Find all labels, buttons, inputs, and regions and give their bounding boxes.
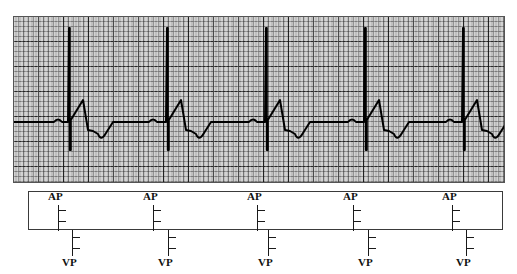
ventricular-pace-tick xyxy=(369,237,376,238)
ventricular-pace-tick xyxy=(73,237,80,238)
atrial-pace-tick xyxy=(154,221,161,222)
atrial-pace-tick xyxy=(59,210,66,211)
ventricular-pace-tick xyxy=(269,248,276,249)
atrial-pace-label: AP xyxy=(247,191,262,202)
ventricular-pace-tick xyxy=(467,248,474,249)
ventricular-pace-stem xyxy=(168,230,169,256)
atrial-pace-label: AP xyxy=(143,191,158,202)
ventricular-pace-tick xyxy=(369,248,376,249)
ventricular-pace-tick xyxy=(269,237,276,238)
atrial-pace-tick xyxy=(59,221,66,222)
ventricular-pace-tick xyxy=(169,248,176,249)
ecg-waveform-trace xyxy=(13,16,505,183)
atrial-pace-stem xyxy=(452,205,453,231)
atrial-pace-tick xyxy=(453,210,460,211)
atrial-pace-stem xyxy=(353,205,354,231)
atrial-pace-label: AP xyxy=(442,191,457,202)
atrial-pace-tick xyxy=(453,221,460,222)
atrial-pace-label: AP xyxy=(343,191,358,202)
ventricular-pace-stem xyxy=(268,230,269,256)
ventricular-pace-tick xyxy=(169,237,176,238)
ventricular-pace-tick xyxy=(73,248,80,249)
ventricular-pace-label: VP xyxy=(158,257,173,268)
ecg-figure: APAPAPAPAPVPVPVPVPVP xyxy=(0,0,517,274)
ecg-trace-path xyxy=(13,28,505,150)
ventricular-pace-tick xyxy=(467,237,474,238)
atrial-pace-label: AP xyxy=(48,191,63,202)
atrial-pace-tick xyxy=(354,221,361,222)
ecg-rhythm-strip xyxy=(13,16,505,183)
atrial-marker-box xyxy=(28,191,503,230)
ventricular-pace-stem xyxy=(368,230,369,256)
atrial-pace-stem xyxy=(257,205,258,231)
atrial-pace-tick xyxy=(258,210,265,211)
atrial-pace-stem xyxy=(153,205,154,231)
atrial-pace-tick xyxy=(354,210,361,211)
ventricular-pace-label: VP xyxy=(62,257,77,268)
ventricular-pace-label: VP xyxy=(456,257,471,268)
ventricular-pace-stem xyxy=(466,230,467,256)
atrial-pace-stem xyxy=(58,205,59,231)
ventricular-pace-label: VP xyxy=(358,257,373,268)
ventricular-pace-stem xyxy=(72,230,73,256)
atrial-pace-tick xyxy=(258,221,265,222)
atrial-pace-tick xyxy=(154,210,161,211)
ventricular-pace-label: VP xyxy=(258,257,273,268)
marker-channel: APAPAPAPAPVPVPVPVPVP xyxy=(0,186,517,274)
